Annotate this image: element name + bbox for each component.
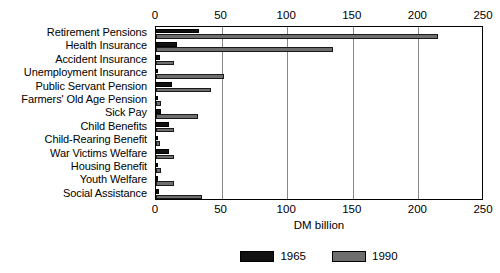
category-axis-labels: Retirement PensionsHealth InsuranceAccid… xyxy=(0,26,150,200)
category-label: Accident Insurance xyxy=(55,53,147,66)
bar-1990 xyxy=(156,101,161,106)
bar-1990 xyxy=(156,181,174,186)
bar-1965 xyxy=(156,42,177,47)
bar-group xyxy=(156,94,482,107)
bar-group xyxy=(156,67,482,80)
legend-item: 1965 xyxy=(240,250,306,262)
bar-1965 xyxy=(156,189,159,194)
category-label: Public Servant Pension xyxy=(35,80,147,93)
bar-1990 xyxy=(156,34,438,39)
x-tick-label: 250 xyxy=(473,202,492,216)
bar-group xyxy=(156,174,482,187)
x-axis-top: 050100150200250 xyxy=(155,8,483,24)
legend-swatch xyxy=(332,251,366,262)
bar-group xyxy=(156,134,482,147)
x-tick-label: 0 xyxy=(152,202,158,216)
category-label: Housing Benefit xyxy=(71,160,147,173)
bar-1965 xyxy=(156,109,161,114)
bar-1965 xyxy=(156,149,169,154)
x-tick-label: 250 xyxy=(473,8,492,22)
category-label: Social Assistance xyxy=(63,187,147,200)
bar-group xyxy=(156,81,482,94)
bar-1965 xyxy=(156,136,158,141)
bar-1965 xyxy=(156,96,158,101)
category-label: Health Insurance xyxy=(65,39,147,52)
chart-legend: 19651990 xyxy=(155,248,483,264)
bar-group xyxy=(156,40,482,53)
x-tick-label: 150 xyxy=(342,202,361,216)
bar-1990 xyxy=(156,155,174,160)
bar-chart: 050100150200250 Retirement PensionsHealt… xyxy=(0,0,500,273)
bar-group xyxy=(156,121,482,134)
x-axis-bottom: 050100150200250 xyxy=(155,202,483,218)
bar-group xyxy=(156,161,482,174)
x-tick-label: 200 xyxy=(408,8,427,22)
bar-group xyxy=(156,148,482,161)
x-tick-label: 100 xyxy=(277,8,296,22)
legend-item: 1990 xyxy=(332,250,398,262)
legend-swatch xyxy=(240,251,274,262)
bar-group xyxy=(156,107,482,120)
bar-1990 xyxy=(156,114,198,119)
category-label: War Victims Welfare xyxy=(50,147,147,160)
legend-label: 1965 xyxy=(280,250,306,262)
bar-1990 xyxy=(156,47,333,52)
category-label: Sick Pay xyxy=(105,106,147,119)
plot-area xyxy=(155,26,483,200)
category-label: Farmers' Old Age Pension xyxy=(21,93,147,106)
bar-1965 xyxy=(156,122,169,127)
category-label: Child Benefits xyxy=(81,120,147,133)
bar-1965 xyxy=(156,55,160,60)
bar-1990 xyxy=(156,195,202,200)
bar-1965 xyxy=(156,29,199,34)
bar-group xyxy=(156,27,482,40)
x-tick-label: 150 xyxy=(342,8,361,22)
bar-1990 xyxy=(156,74,224,79)
bar-1990 xyxy=(156,88,211,93)
bar-1965 xyxy=(156,176,158,181)
bar-group xyxy=(156,54,482,67)
x-axis-title: DM billion xyxy=(155,219,483,231)
x-tick-label: 50 xyxy=(214,202,227,216)
x-tick-label: 100 xyxy=(277,202,296,216)
x-tick-label: 200 xyxy=(408,202,427,216)
category-label: Child-Rearing Benefit xyxy=(45,133,147,146)
bar-1990 xyxy=(156,61,174,66)
bar-1990 xyxy=(156,141,160,146)
legend-label: 1990 xyxy=(372,250,398,262)
bar-1990 xyxy=(156,128,174,133)
category-label: Youth Welfare xyxy=(80,173,147,186)
bar-1965 xyxy=(156,69,158,74)
bar-1965 xyxy=(156,163,158,168)
category-label: Unemployment Insurance xyxy=(24,66,147,79)
x-tick-label: 0 xyxy=(152,8,158,22)
category-label: Retirement Pensions xyxy=(47,26,147,39)
bar-1965 xyxy=(156,82,172,87)
bar-group xyxy=(156,188,482,201)
x-tick-label: 50 xyxy=(214,8,227,22)
bar-1990 xyxy=(156,168,161,173)
